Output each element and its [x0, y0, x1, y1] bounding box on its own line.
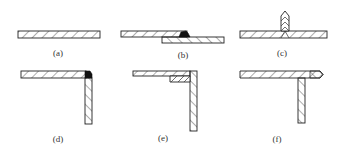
edge-weld — [310, 71, 323, 78]
plate-lower — [162, 37, 224, 43]
panel-label-d: (d) — [53, 134, 64, 144]
plate-vertical — [298, 78, 305, 123]
corner-weld — [85, 71, 92, 78]
panel-e: (e) — [133, 71, 197, 143]
plate-vertical — [190, 71, 197, 131]
plate-vertical — [85, 78, 92, 124]
plate-upper — [121, 31, 187, 37]
plate-horizontal — [18, 31, 100, 38]
panel-b: (b) — [121, 31, 224, 60]
panel-f: (f) — [240, 71, 323, 144]
plate-horizontal — [21, 71, 86, 78]
plate-horizontal — [133, 71, 190, 76]
panel-label-c: (c) — [277, 48, 287, 58]
weld-joint-diagram: (a) (b) (c) (d) — [0, 0, 342, 154]
panel-d: (d) — [21, 71, 92, 144]
panel-label-a: (a) — [53, 48, 63, 58]
panel-label-b: (b) — [178, 50, 189, 60]
plate-vertical — [281, 11, 289, 31]
panel-label-e: (e) — [158, 133, 168, 143]
plate-base — [240, 31, 327, 38]
panel-a: (a) — [18, 31, 100, 58]
panel-label-f: (f) — [273, 134, 282, 144]
panel-c: (c) — [240, 11, 327, 58]
